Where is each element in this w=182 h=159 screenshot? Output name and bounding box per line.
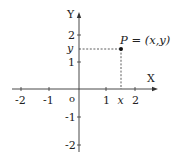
- x-tick-label: -2: [15, 94, 26, 107]
- y-axis: [77, 12, 81, 152]
- point-p-label: P = (x,y): [119, 33, 170, 47]
- y-tick-label: -1: [65, 111, 76, 124]
- x-tick-label: -1: [43, 94, 54, 107]
- origin-label: o: [69, 93, 75, 104]
- x-axis-label: X: [147, 72, 155, 85]
- y-tick-label: 2: [68, 29, 75, 42]
- y-tick-label: 1: [68, 56, 75, 69]
- x-axis-arrow-icon: [152, 87, 158, 91]
- y-axis-arrow-icon: [77, 12, 81, 18]
- point-p-marker: [119, 47, 123, 51]
- x-tick-label: 1: [103, 94, 110, 107]
- y-marker-label: y: [66, 42, 74, 55]
- y-axis-label: Y: [66, 8, 75, 21]
- x-tick-label: 2: [132, 94, 139, 107]
- x-marker-label: x: [118, 94, 125, 107]
- y-tick-label: -2: [65, 139, 76, 152]
- coordinate-plane: Y X o -2 -1 1 2 x 2 1 -1 -2 y P = (x,y): [0, 0, 182, 159]
- x-axis: [12, 87, 158, 91]
